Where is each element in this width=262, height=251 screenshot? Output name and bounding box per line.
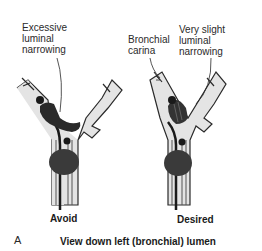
right-airway-diagram bbox=[150, 58, 226, 210]
panel-letter: A bbox=[14, 235, 21, 246]
annotation-bronchial-carina: Bronchial carina bbox=[128, 34, 170, 56]
annotation-excessive-narrowing: Excessive luminal narrowing bbox=[22, 22, 67, 55]
annotation-slight-narrowing: Very slight luminal narrowing bbox=[179, 24, 225, 57]
label-desired: Desired bbox=[177, 214, 214, 225]
left-airway-diagram bbox=[17, 58, 122, 210]
label-avoid: Avoid bbox=[50, 213, 77, 224]
figure-caption: View down left (bronchial) lumen bbox=[60, 236, 216, 247]
